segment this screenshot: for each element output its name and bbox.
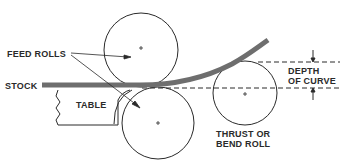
thrust-roll-label-line1: THRUST OR [216, 129, 270, 139]
depth-of-curve-label-line2: OF CURVE [288, 76, 336, 86]
feed-rolls-label: FEED ROLLS [7, 49, 66, 59]
stock-strip [42, 40, 268, 85]
thrust-roll-label-line2: BEND ROLL [216, 139, 270, 149]
stock-label: STOCK [5, 81, 37, 91]
table-edge-arc [114, 90, 132, 124]
depth-of-curve-label-line1: DEPTH [288, 66, 320, 76]
table-label: TABLE [76, 100, 106, 110]
